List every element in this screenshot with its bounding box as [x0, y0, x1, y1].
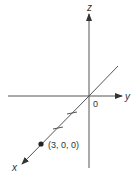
z-axis-label: z — [86, 2, 92, 13]
origin-label: 0 — [93, 99, 98, 109]
coordinate-diagram: z y x 0 (3, 0, 0) — [0, 0, 135, 174]
point-marker — [38, 141, 43, 146]
point-label: (3, 0, 0) — [48, 140, 79, 150]
x-axis-label: x — [11, 162, 18, 173]
x-axis — [22, 96, 89, 164]
x-axis-back — [89, 66, 118, 96]
y-axis-label: y — [124, 91, 131, 102]
